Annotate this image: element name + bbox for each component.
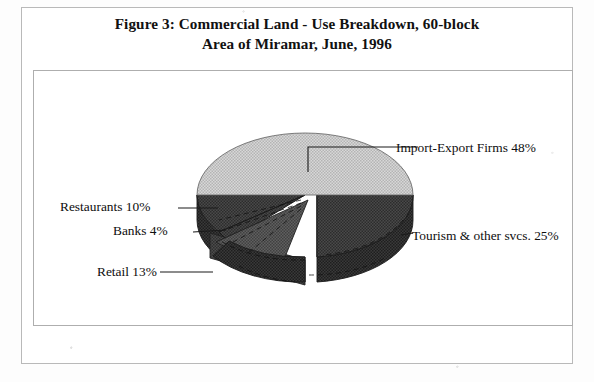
pie-slice-import-export — [197, 133, 413, 195]
pie-label-retail: Retail 13% — [97, 264, 157, 280]
pie-chart — [33, 70, 573, 326]
figure-page: Figure 3: Commercial Land - Use Breakdow… — [0, 0, 594, 382]
pie-label-import-export: Import-Export Firms 48% — [396, 140, 536, 156]
figure-title-line-2: Area of Miramar, June, 1996 — [21, 34, 573, 54]
pie-chart-svg — [33, 70, 573, 326]
pie-label-tourism: Tourism & other svcs. 25% — [412, 228, 559, 244]
pie-label-restaurants: Restaurants 10% — [60, 199, 150, 215]
figure-title: Figure 3: Commercial Land - Use Breakdow… — [21, 14, 573, 53]
figure-title-line-1: Figure 3: Commercial Land - Use Breakdow… — [21, 14, 573, 34]
pie-label-banks: Banks 4% — [113, 223, 168, 239]
